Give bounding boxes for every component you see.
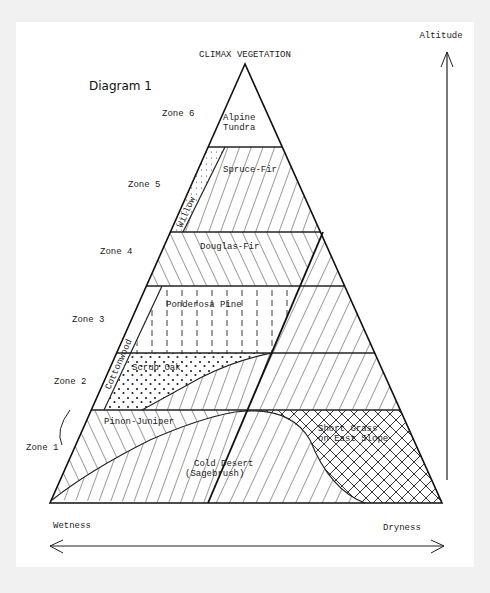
- spruce-fir-label: Spruce-Fir: [223, 165, 277, 175]
- zone2-dry-region: [248, 353, 400, 410]
- short-grass-label-1: Short Grass: [318, 424, 377, 434]
- zone-4-label: Zone 4: [100, 247, 132, 257]
- scrub-oak-label: Scrub Oak: [132, 363, 181, 373]
- pinon-juniper-label: Pinon-Juniper: [104, 417, 174, 427]
- diagram-heading: CLIMAX VEGETATION: [199, 50, 291, 60]
- alpine-label-1: Alpine: [223, 113, 255, 123]
- douglas-fir-label: Douglas-Fir: [200, 242, 259, 252]
- dryness-label: Dryness: [383, 523, 421, 533]
- short-grass-label-2: on East Slope: [318, 434, 388, 444]
- diagram-title: Diagram 1: [89, 79, 152, 93]
- cold-desert-label-2: (Sagebrush): [185, 469, 244, 479]
- zone-1-label: Zone 1: [26, 443, 58, 453]
- zone-5-label: Zone 5: [128, 180, 160, 190]
- altitude-label: Altitude: [419, 31, 462, 41]
- ponderosa-label: Ponderosa Pine: [166, 300, 242, 310]
- cold-desert-label-1: Cold Desert: [194, 459, 253, 469]
- climax-vegetation-diagram: CLIMAX VEGETATION Altitude Diagram 1 Zon…: [0, 0, 490, 593]
- douglas-fir-region: [146, 232, 323, 286]
- wetness-label: Wetness: [53, 521, 91, 531]
- alpine-label-2: Tundra: [223, 123, 256, 133]
- zone-3-label: Zone 3: [72, 315, 104, 325]
- zone-6-label: Zone 6: [162, 109, 194, 119]
- zone-2-label: Zone 2: [54, 377, 86, 387]
